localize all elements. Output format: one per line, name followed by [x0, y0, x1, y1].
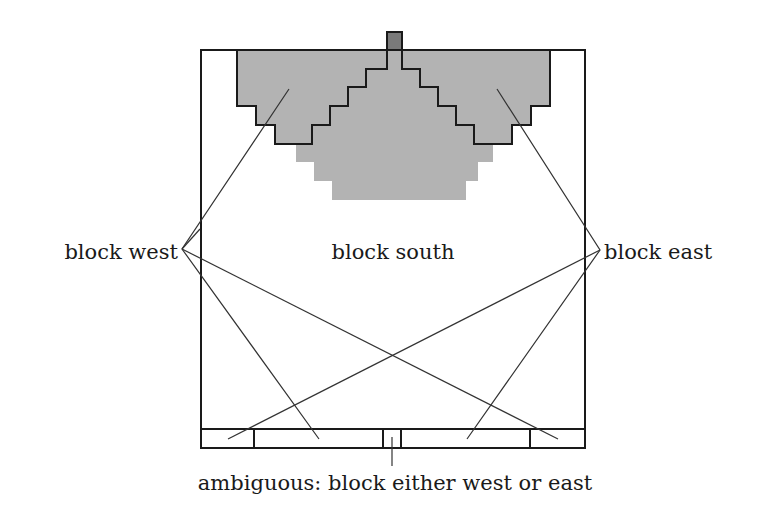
grid-blocking-diagram: block west block south block east ambigu…: [0, 0, 775, 521]
label-block-east: block east: [604, 240, 713, 264]
top-marker-cell: [387, 32, 402, 50]
label-block-west: block west: [64, 240, 178, 264]
label-ambiguous: ambiguous: block either west or east: [198, 471, 593, 495]
label-block-south: block south: [332, 240, 455, 264]
